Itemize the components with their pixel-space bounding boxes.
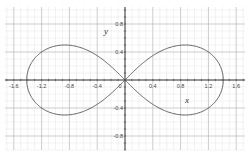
x-tick-label: -0.8 bbox=[65, 83, 74, 89]
y-tick-label: -0.8 bbox=[114, 133, 123, 139]
x-tick-label: 0.8 bbox=[177, 83, 185, 89]
x-tick-label: -0.4 bbox=[92, 83, 101, 89]
y-tick-label: 0.8 bbox=[115, 21, 123, 27]
y-tick-label: -0.4 bbox=[114, 105, 123, 111]
x-tick-label: 1.2 bbox=[205, 83, 213, 89]
lemniscate-chart: -1.6-1.2-0.8-0.40.40.81.21.60.80.4-0.4-0… bbox=[0, 0, 250, 157]
x-tick-label: 1.6 bbox=[232, 83, 240, 89]
x-axis-label: x bbox=[184, 95, 189, 105]
x-tick-label: -1.2 bbox=[37, 83, 46, 89]
y-axis-label: y bbox=[103, 26, 108, 36]
x-tick-label: 0.4 bbox=[149, 83, 157, 89]
x-tick-label: -1.6 bbox=[9, 83, 18, 89]
y-tick-label: 0.4 bbox=[115, 49, 123, 55]
axes bbox=[5, 7, 245, 150]
